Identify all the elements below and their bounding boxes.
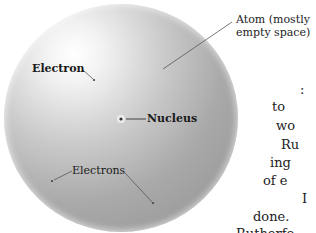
body-text-fragment: I [302, 191, 307, 206]
electrons-label: Electrons [72, 165, 125, 177]
electrons-leader-line-right [125, 173, 152, 202]
electron-dot-lower-left [51, 180, 53, 182]
body-text-fragment: ing [270, 155, 291, 170]
atom-label-line1: Atom (mostly [236, 13, 310, 26]
electron-dot-upper [93, 79, 95, 81]
electrons-leader-line-left [54, 171, 72, 180]
electron-label: Electron [32, 63, 84, 75]
electron-leader-line [83, 70, 93, 79]
atom-leader-line [163, 22, 232, 69]
body-text-fragment: wo [276, 118, 295, 133]
body-text-fragment: done. [253, 209, 289, 224]
body-text-fragment: Rutherfo [236, 226, 294, 233]
body-text-fragment: Ru [281, 137, 299, 152]
body-text-fragment: : [300, 82, 304, 97]
electron-dot-lower-right [152, 202, 154, 204]
nucleus-dot [119, 117, 122, 120]
atom-label-line2: empty space) [236, 26, 310, 39]
body-text-fragment: to [272, 99, 285, 114]
atom-label: Atom (mostly empty space) [236, 13, 310, 39]
nucleus-label: Nucleus [147, 113, 197, 125]
body-text-fragment: of e [263, 173, 287, 188]
atom-diagram-figure: Atom (mostly empty space) Electron Nucle… [0, 0, 316, 233]
